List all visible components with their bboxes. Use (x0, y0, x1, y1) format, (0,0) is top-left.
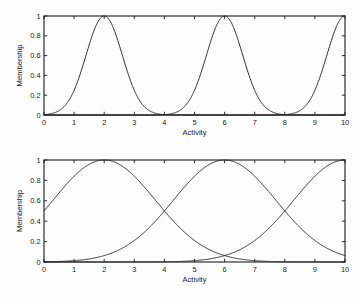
plot-top: 01234567891000.20.40.60.81ActivityMember… (0, 0, 360, 149)
x-tick-label: 6 (223, 118, 227, 127)
plot-box (44, 16, 345, 115)
figure-container: 01234567891000.20.40.60.81ActivityMember… (0, 0, 360, 298)
y-tick-label: 1 (36, 156, 40, 165)
x-axis-title: Activity (182, 128, 206, 137)
x-tick-label: 10 (341, 118, 349, 127)
x-tick-label: 7 (253, 118, 257, 127)
x-tick-label: 3 (132, 265, 136, 274)
y-axis-title: Membership (15, 45, 24, 87)
y-tick-label: 0 (36, 258, 40, 267)
curve-medium (44, 16, 345, 115)
y-tick-label: 0.2 (30, 237, 40, 246)
x-tick-label: 0 (42, 118, 46, 127)
chart-panel-top: 01234567891000.20.40.60.81ActivityMember… (0, 0, 360, 149)
x-tick-label: 2 (102, 265, 106, 274)
y-tick-label: 0.2 (30, 91, 40, 100)
curve-low (44, 160, 345, 262)
y-tick-label: 0 (36, 111, 40, 120)
plot-bottom: 01234567891000.20.40.60.81ActivityMember… (0, 149, 360, 298)
curve-medium (44, 160, 345, 262)
y-tick-label: 0.8 (30, 176, 40, 185)
y-tick-label: 0.4 (30, 71, 40, 80)
x-axis-title: Activity (182, 275, 206, 284)
y-tick-label: 0.6 (30, 196, 40, 205)
x-tick-label: 4 (162, 118, 166, 127)
x-tick-label: 5 (192, 118, 196, 127)
x-tick-label: 1 (72, 118, 76, 127)
curve-high (44, 16, 345, 115)
x-tick-label: 7 (253, 265, 257, 274)
x-tick-label: 1 (72, 265, 76, 274)
y-tick-label: 1 (36, 12, 40, 21)
x-tick-label: 5 (192, 265, 196, 274)
x-tick-label: 2 (102, 118, 106, 127)
chart-panel-bottom: 01234567891000.20.40.60.81ActivityMember… (0, 149, 360, 298)
x-tick-label: 10 (341, 265, 349, 274)
x-tick-label: 6 (223, 265, 227, 274)
x-tick-label: 4 (162, 265, 166, 274)
x-tick-label: 9 (313, 265, 317, 274)
plot-box (44, 160, 345, 262)
y-axis-title: Membership (15, 190, 24, 232)
curve-low (44, 16, 345, 115)
x-tick-label: 8 (283, 265, 287, 274)
y-tick-label: 0.6 (30, 51, 40, 60)
x-tick-label: 0 (42, 265, 46, 274)
y-tick-label: 0.8 (30, 31, 40, 40)
x-tick-label: 9 (313, 118, 317, 127)
y-tick-label: 0.4 (30, 217, 40, 226)
x-tick-label: 8 (283, 118, 287, 127)
curve-high (44, 160, 345, 262)
x-tick-label: 3 (132, 118, 136, 127)
